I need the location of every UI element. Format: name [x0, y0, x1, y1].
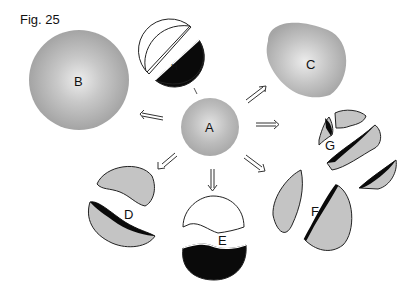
fragment-d: D: [88, 166, 155, 246]
fragment-c: C: [267, 23, 347, 98]
fragment-h: H: [138, 19, 204, 94]
arrow-to-f: [244, 155, 265, 172]
label-g: G: [325, 138, 335, 153]
arrow-to-b: [140, 110, 163, 120]
label-a: A: [205, 120, 214, 135]
sphere-a: A: [181, 98, 239, 156]
arrow-to-d: [158, 153, 177, 169]
label-b: B: [74, 74, 83, 89]
fragmentation-diagram: Fig. 25 B: [0, 0, 419, 294]
fragment-f: F: [273, 170, 352, 250]
fragment-e: E: [183, 196, 247, 280]
sphere-b: B: [29, 30, 129, 130]
label-f: F: [311, 204, 319, 219]
label-d: D: [124, 207, 133, 222]
label-e: E: [218, 233, 227, 248]
label-c: C: [306, 57, 315, 72]
fragment-g: G: [319, 110, 396, 189]
figure-title: Fig. 25: [20, 12, 60, 27]
arrow-to-g: [256, 120, 279, 129]
label-h: H: [171, 62, 178, 72]
arrow-to-c: [246, 86, 266, 103]
arrow-to-e: [208, 169, 217, 191]
